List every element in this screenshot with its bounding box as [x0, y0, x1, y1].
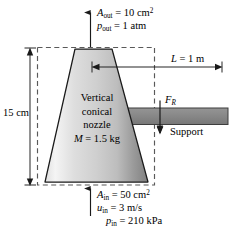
outlet-area-subscript: out: [103, 12, 112, 20]
mass-symbol: M: [74, 133, 83, 144]
inlet-conditions-label: Ain = 50 cm2 uin = 3 m/s pin = 210 kPa: [97, 189, 162, 228]
outlet-area-exponent: 2: [150, 7, 154, 15]
nozzle-description-line2: conical: [56, 105, 138, 119]
inlet-area-value: = 50 cm: [112, 189, 147, 200]
height-dimension-label: 15 cm: [3, 107, 29, 119]
reaction-force-arrowhead: [157, 127, 164, 135]
nozzle-description-line3: nozzle: [56, 118, 138, 132]
inlet-velocity-value: = 3 m/s: [110, 202, 142, 213]
outlet-conditions-label: Aout = 10 cm2 pout = 1 atm: [97, 7, 153, 33]
reaction-force-subscript: R: [171, 99, 175, 107]
length-dim-arrow-right: [215, 64, 223, 70]
outlet-area-label: Aout = 10 cm2: [97, 7, 153, 20]
mass-value: = 1.5 kg: [85, 133, 120, 144]
inlet-velocity-subscript: in: [102, 207, 108, 215]
outlet-pressure-subscript: out: [102, 25, 111, 33]
inlet-pressure-label: pin = 210 kPa: [97, 215, 162, 228]
inlet-pressure-subscript: in: [111, 220, 117, 228]
length-value: = 1 m: [179, 53, 204, 64]
length-dimension-label: L = 1 m: [171, 53, 204, 65]
inlet-velocity-label: uin = 3 m/s: [97, 202, 162, 215]
outlet-pressure-value: = 1 atm: [114, 20, 146, 31]
outlet-area-value: = 10 cm: [115, 7, 150, 18]
nozzle-description-label: Vertical conical nozzle: [56, 91, 138, 132]
reaction-force-label: FR: [165, 94, 176, 107]
nozzle-description-line1: Vertical: [56, 91, 138, 105]
inlet-area-exponent: 2: [146, 189, 150, 197]
height-dim-arrow-top: [27, 48, 33, 56]
support-bar: [128, 108, 228, 125]
inlet-area-label: Ain = 50 cm2: [97, 189, 162, 202]
inlet-area-subscript: in: [103, 194, 109, 202]
nozzle-diagram: Aout = 10 cm2 pout = 1 atm Ain = 50 cm2 …: [0, 0, 230, 238]
nozzle-mass-label: M = 1.5 kg: [56, 132, 138, 146]
inlet-pressure-value: = 210 kPa: [119, 215, 162, 226]
outlet-pressure-label: pout = 1 atm: [97, 20, 153, 33]
length-symbol: L: [171, 53, 177, 64]
support-label: Support: [170, 126, 203, 138]
